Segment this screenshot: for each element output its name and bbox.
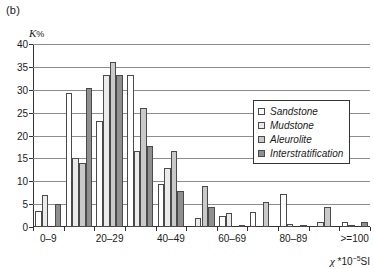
x-tick-mark xyxy=(156,227,157,231)
legend: Sandstone Mudstone Aleurolite Interstrat… xyxy=(253,100,350,164)
bar xyxy=(250,212,257,227)
bar xyxy=(158,184,165,227)
bar xyxy=(263,202,270,227)
x-tick-mark xyxy=(278,227,279,231)
x-axis-caption-tail: SI xyxy=(361,256,370,267)
y-axis-caption: K% xyxy=(29,27,44,39)
bar xyxy=(42,195,49,227)
y-tick-label: 40 xyxy=(17,39,28,50)
legend-swatch-aleurolite-icon xyxy=(258,136,265,143)
bar xyxy=(116,75,123,227)
x-tick-mark xyxy=(64,227,65,231)
bar xyxy=(208,207,215,227)
bar xyxy=(177,191,184,227)
bar xyxy=(86,88,93,227)
legend-swatch-mudstone-icon xyxy=(258,122,265,129)
bar xyxy=(127,75,134,227)
bar xyxy=(147,146,154,227)
y-tick-label: 10 xyxy=(17,176,28,187)
bar xyxy=(195,218,202,227)
bar xyxy=(171,151,178,227)
legend-item: Aleurolite xyxy=(258,132,343,146)
legend-item: Interstratification xyxy=(258,146,343,160)
legend-label: Sandstone xyxy=(270,106,318,117)
x-tick-label: 80–89 xyxy=(280,233,308,244)
legend-item: Mudstone xyxy=(258,118,343,132)
legend-label: Mudstone xyxy=(270,120,314,131)
y-tick-label: 0 xyxy=(22,222,28,233)
legend-swatch-sandstone-icon xyxy=(258,108,265,115)
legend-item: Sandstone xyxy=(258,104,343,118)
x-axis-caption-exponent: −5 xyxy=(353,255,361,262)
bar xyxy=(280,194,287,227)
x-tick-mark xyxy=(217,227,218,231)
bar xyxy=(219,216,226,227)
x-tick-mark xyxy=(33,227,34,231)
bar xyxy=(96,121,103,227)
bar xyxy=(35,211,42,227)
bar xyxy=(164,168,171,227)
bar xyxy=(140,108,147,227)
y-tick-label: 25 xyxy=(17,107,28,118)
bar xyxy=(55,204,62,227)
x-tick-label: >=100 xyxy=(340,233,368,244)
x-tick-label: 0–9 xyxy=(40,233,57,244)
bar xyxy=(66,93,73,228)
bar xyxy=(103,75,110,227)
bar xyxy=(202,186,209,227)
bar xyxy=(342,222,349,227)
bar xyxy=(239,225,246,227)
y-tick-label: 30 xyxy=(17,84,28,95)
legend-label: Interstratification xyxy=(270,148,343,159)
panel-label: (b) xyxy=(6,4,20,16)
x-tick-mark xyxy=(370,227,371,231)
bar xyxy=(110,62,117,227)
x-tick-label: 40–49 xyxy=(157,233,185,244)
y-tick-label: 5 xyxy=(22,199,28,210)
bar xyxy=(317,222,324,227)
x-axis-caption-rest: *10 xyxy=(335,256,353,267)
bar xyxy=(348,225,355,227)
legend-swatch-interstratification-icon xyxy=(258,150,265,157)
y-axis-unit: % xyxy=(36,29,44,39)
legend-label: Aleurolite xyxy=(270,134,312,145)
y-tick-label: 15 xyxy=(17,153,28,164)
x-tick-mark xyxy=(94,227,95,231)
x-tick-mark xyxy=(125,227,126,231)
x-tick-mark xyxy=(309,227,310,231)
bar xyxy=(300,225,307,227)
y-tick-label: 20 xyxy=(17,130,28,141)
bar xyxy=(361,222,368,227)
x-tick-label: 60–69 xyxy=(218,233,246,244)
x-axis-caption: χ *10−5SI xyxy=(330,255,370,267)
x-tick-mark xyxy=(247,227,248,231)
bar xyxy=(287,224,294,227)
bar xyxy=(72,158,79,227)
bar xyxy=(134,151,141,227)
bar xyxy=(324,207,331,227)
x-tick-mark xyxy=(339,227,340,231)
x-tick-mark xyxy=(186,227,187,231)
x-tick-label: 20–29 xyxy=(96,233,124,244)
magnetic-susceptibility-histogram-figure: (b) K% 0510152025303540 0–920–2940–4960–… xyxy=(0,0,374,269)
bar xyxy=(79,163,86,228)
bar xyxy=(226,213,233,227)
y-tick-label: 35 xyxy=(17,61,28,72)
